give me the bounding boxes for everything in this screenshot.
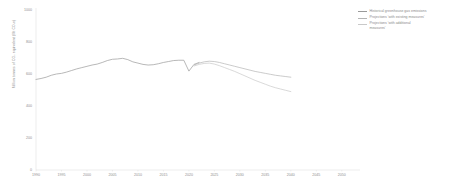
legend-item[interactable]: Historical greenhouse gas emissions [358,9,466,14]
legend-item-label: Projections 'with existing measures' [370,15,425,20]
legend-swatch-icon [358,11,367,12]
legend-item-label: Historical greenhouse gas emissions [370,9,427,14]
chart-legend: Historical greenhouse gas emissionsProje… [358,9,466,32]
legend-item[interactable]: Projections 'with additional measures' [358,21,466,30]
series-line-0 [36,58,199,79]
legend-swatch-icon [358,24,367,25]
data-series-group [36,58,291,91]
axis-lines [36,8,360,172]
legend-swatch-icon [358,18,367,19]
series-line-2 [194,63,291,91]
emissions-line-chart: Million tonnes of CO₂ equivalent (Mt CO₂… [0,0,466,195]
legend-item[interactable]: Projections 'with existing measures' [358,15,466,20]
legend-item-label: Projections 'with additional measures' [370,21,411,30]
